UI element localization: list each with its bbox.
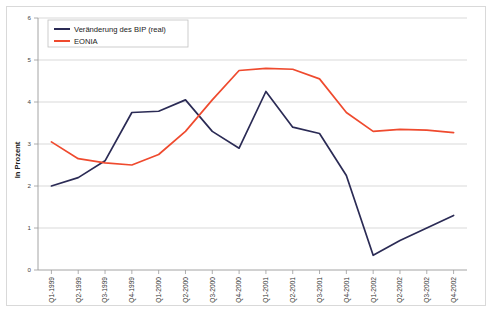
x-tick-label: Q3-2002 — [423, 277, 431, 303]
y-tick-label: 0 — [28, 266, 32, 273]
x-tick-label: Q1-2001 — [262, 277, 270, 303]
y-tick-label: 3 — [28, 140, 32, 147]
y-tick-label: 6 — [28, 14, 32, 21]
y-tick-label: 2 — [28, 182, 32, 189]
chart-legend: Veränderung des BIP (real)EONIA — [48, 20, 188, 47]
y-tick-label: 4 — [28, 98, 32, 105]
gridlines — [38, 18, 467, 228]
x-tick-label: Q1-2002 — [370, 277, 378, 303]
y-axis: 0123456 — [28, 14, 38, 273]
x-tick-label: Q4-2002 — [450, 277, 458, 303]
line-chart: 0123456 Q1-1999Q2-1999Q3-1999Q4-1999Q1-2… — [0, 0, 493, 315]
x-tick-label: Q4-2000 — [235, 277, 243, 303]
x-tick-label: Q2-2000 — [182, 277, 190, 303]
series-line-2 — [51, 68, 453, 165]
x-tick-label: Q4-2001 — [343, 277, 351, 303]
y-axis-title-text: In Prozent — [13, 141, 22, 178]
x-tick-label: Q3-2001 — [316, 277, 324, 303]
x-tick-label: Q1-2000 — [155, 277, 163, 303]
x-tick-label: Q2-1999 — [75, 277, 83, 303]
x-tick-label: Q2-2001 — [289, 277, 297, 303]
y-tick-label: 1 — [28, 224, 32, 231]
x-tick-label: Q3-1999 — [101, 277, 109, 303]
y-tick-label: 5 — [28, 56, 32, 63]
x-tick-label: Q1-1999 — [48, 277, 56, 303]
x-tick-label: Q2-2002 — [396, 277, 404, 303]
x-axis: Q1-1999Q2-1999Q3-1999Q4-1999Q1-2000Q2-20… — [38, 270, 467, 303]
chart-container: 0123456 Q1-1999Q2-1999Q3-1999Q4-1999Q1-2… — [0, 0, 493, 315]
series-line-1 — [51, 92, 453, 256]
legend-label-2: EONIA — [74, 37, 99, 46]
y-axis-title: In Prozent — [13, 141, 22, 178]
legend-label-1: Veränderung des BIP (real) — [74, 25, 166, 34]
data-series — [51, 68, 453, 255]
x-tick-label: Q4-1999 — [128, 277, 136, 303]
x-tick-label: Q3-2000 — [209, 277, 217, 303]
